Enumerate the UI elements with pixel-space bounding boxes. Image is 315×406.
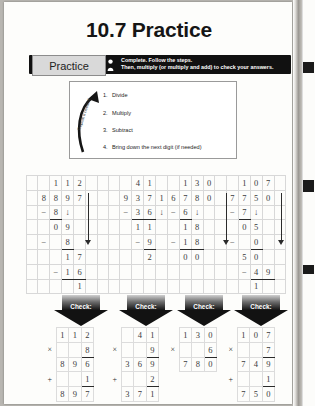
p1-divisor: 8	[38, 190, 50, 205]
grid-cell	[27, 190, 38, 205]
p3-bringdown-1: ↓	[191, 205, 203, 220]
grid-cell	[38, 279, 50, 294]
p4-sub1-d2: 5	[250, 220, 262, 235]
grid-cell	[156, 264, 168, 279]
grid-cell	[97, 205, 108, 220]
p4-partial-1: 7	[238, 205, 250, 220]
check-row: 4 1	[109, 328, 159, 343]
spacer	[44, 357, 56, 372]
c2-prod-d3: 9	[146, 357, 159, 372]
step-item-3: 3.Subtract	[103, 127, 133, 133]
p1-minus-3: −	[50, 264, 62, 279]
grid-cell	[97, 235, 108, 250]
grid-cell	[38, 220, 50, 235]
p1-partial-1: 8	[50, 205, 62, 220]
grid-cell	[274, 205, 286, 220]
grid-cell	[27, 176, 38, 191]
grid-cell	[27, 249, 38, 264]
grid-row-partial-2: − 8 − 9 − 1 8 −	[27, 235, 286, 250]
grid-cell	[108, 220, 119, 235]
grid-cell	[108, 249, 119, 264]
p3-quotient-d3: 0	[203, 176, 215, 191]
p3-remainder-d1: 0	[179, 249, 191, 264]
check-arrow-head	[119, 310, 173, 326]
c2-f1-d1: 4	[134, 328, 147, 343]
bringdown-arrow-p1	[88, 193, 89, 241]
grid-cell	[262, 220, 274, 235]
grid-cell	[215, 279, 226, 294]
grid-cell	[108, 264, 119, 279]
grid-cell	[203, 205, 215, 220]
p4-minus-3: −	[238, 264, 250, 279]
p1-sub1-d1: 0	[50, 220, 62, 235]
step-number-1: 1.	[103, 92, 112, 98]
grid-cell	[56, 342, 69, 357]
grid-cell	[226, 220, 238, 235]
check-row: + 1	[225, 372, 275, 387]
c2-add-op: +	[109, 372, 121, 387]
grid-cell	[274, 220, 286, 235]
c1-addend: 1	[81, 372, 94, 387]
p3-partial-2b: 8	[191, 235, 203, 250]
grid-cell	[262, 249, 274, 264]
check-arrow-4: Check:	[234, 295, 288, 325]
grid-cell	[262, 279, 274, 294]
grid-cell	[203, 264, 215, 279]
check-label-3: Check:	[177, 303, 231, 310]
p1-quotient-d2: 1	[62, 176, 74, 191]
grid-cell	[69, 372, 82, 387]
grid-cell	[156, 279, 168, 294]
grid-cell	[237, 342, 250, 357]
grid-cell	[50, 249, 62, 264]
c4-f1-d3: 7	[262, 328, 275, 343]
grid-cell	[215, 249, 226, 264]
grid-cell	[203, 279, 215, 294]
p3-quotient-d1: 1	[179, 176, 191, 191]
c1-mult-op: ×	[44, 342, 56, 357]
practice-banner: Practice Complete. Follow the steps. The…	[29, 55, 291, 74]
grid-cell	[74, 235, 86, 250]
c3-f1-d3: 0	[204, 328, 217, 343]
grid-cell	[132, 249, 144, 264]
check-work-3: 1 3 0 × 6 7 8 0	[167, 327, 217, 372]
p4-partial-3b: 9	[262, 264, 274, 279]
p2-partial-1a: 3	[132, 205, 144, 220]
p2-minus-1: −	[120, 205, 132, 220]
grid-cell	[97, 264, 108, 279]
check-row: + 2	[109, 372, 159, 387]
grid-cell	[97, 249, 108, 264]
spacer	[225, 357, 237, 372]
grid-cell	[168, 176, 180, 191]
practice-tab: Practice	[32, 55, 106, 76]
check-table-1: 1 1 2 × 8 8 9 6 +	[44, 327, 94, 402]
facing-page	[302, 0, 314, 406]
grid-cell	[120, 279, 132, 294]
p4-minus-1: −	[226, 205, 238, 220]
spacer	[44, 387, 56, 402]
grid-cell	[62, 279, 74, 294]
grid-cell	[215, 190, 226, 205]
grid-cell	[179, 342, 192, 357]
grid-cell	[144, 279, 156, 294]
step-number-2: 2.	[103, 110, 112, 116]
book-gutter-shadow	[293, 0, 302, 406]
grid-row-dividend: 8 8 9 7 9 3 7 1 6 7 8 0 7	[27, 190, 286, 205]
step-item-1: 1.Divide	[103, 92, 128, 98]
grid-cell	[108, 176, 119, 191]
grid-cell	[56, 372, 69, 387]
step-text-2: Multiply	[112, 110, 131, 116]
c2-prod-d2: 6	[134, 357, 147, 372]
c4-prod-d3: 9	[262, 357, 275, 372]
p2-sub1-d1: 1	[132, 220, 144, 235]
c4-sum-d2: 5	[250, 387, 263, 402]
grid-cell	[191, 279, 203, 294]
grid-cell	[203, 235, 215, 250]
grid-cell	[108, 190, 119, 205]
p3-sub1-d1: 1	[179, 220, 191, 235]
grid-cell	[156, 176, 168, 191]
grid-cell	[121, 372, 134, 387]
c2-addend: 2	[146, 372, 159, 387]
grid-cell	[74, 220, 86, 235]
grid-cell	[179, 279, 191, 294]
p4-divisor: 7	[226, 190, 238, 205]
